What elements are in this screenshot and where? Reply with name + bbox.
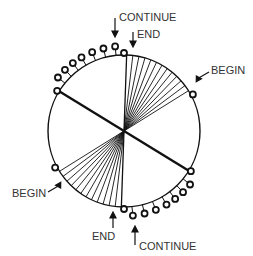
terminal-ring-icon	[153, 207, 159, 213]
terminal-ring-icon	[130, 213, 136, 219]
terminal-ring-icon	[112, 43, 118, 49]
arrow-top-end-icon	[130, 32, 136, 47]
label-bottom-continue: CONTINUE	[139, 240, 196, 252]
terminal-ring-icon	[62, 67, 68, 73]
arrow-top-continue-icon	[112, 18, 118, 37]
arrow-bottom-end-icon	[110, 212, 116, 228]
label-right-begin: BEGIN	[211, 64, 245, 76]
terminal-ring-icon	[70, 60, 76, 66]
label-bottom-end: END	[92, 230, 115, 242]
terminal-ring-icon	[54, 88, 60, 94]
terminal-ring-icon	[187, 181, 193, 187]
terminal-ring-icon	[121, 206, 127, 212]
arrows	[48, 18, 209, 245]
diameter-line	[59, 91, 189, 170]
arrow-left-begin-icon	[48, 182, 63, 192]
arrow-bottom-continue-icon	[132, 226, 138, 245]
arrow-right-begin-icon	[194, 72, 209, 82]
fan-line	[124, 86, 185, 131]
terminal-ring-icon	[89, 49, 95, 55]
terminal-ring-icon	[172, 196, 178, 202]
terminal-ring-icon	[55, 75, 61, 81]
terminal-ring-icon	[180, 189, 186, 195]
terminal-ring-icon	[52, 165, 58, 171]
terminal-ring-icon	[164, 202, 170, 208]
fan-line	[63, 131, 124, 176]
label-top-continue: CONTINUE	[119, 11, 176, 23]
terminal-ring-icon	[190, 91, 196, 97]
label-left-begin: BEGIN	[12, 187, 46, 199]
label-top-end: END	[137, 28, 160, 40]
terminal-ring-icon	[121, 50, 127, 56]
terminal-ring-icon	[142, 210, 148, 216]
winding-diagram: CONTINUE END BEGIN BEGIN END CONTINUE	[0, 0, 253, 256]
terminal-ring-icon	[100, 46, 106, 52]
terminal-ring-icon	[188, 168, 194, 174]
terminal-ring-icon	[79, 54, 85, 60]
